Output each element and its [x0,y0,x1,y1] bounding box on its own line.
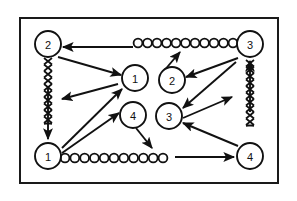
node-label: 1 [132,73,138,85]
node-n-bottom-right[interactable]: 4 [237,143,263,169]
node-label: 2 [45,39,51,51]
node-n-center-four[interactable]: 4 [120,102,146,128]
node-label: 3 [247,39,253,51]
diagram-svg: 23124314 [0,0,297,201]
node-n-bottom-left[interactable]: 1 [35,143,61,169]
node-n-center-one[interactable]: 1 [122,65,148,91]
node-label: 3 [166,111,172,123]
node-label: 2 [169,75,175,87]
node-n-center-two[interactable]: 2 [159,67,185,93]
diagram-canvas: 23124314 [0,0,297,201]
node-label: 1 [45,151,51,163]
screenshot-root: 23124314 [0,0,297,201]
node-n-center-three[interactable]: 3 [156,103,182,129]
node-label: 4 [130,110,136,122]
node-n-top-right[interactable]: 3 [237,31,263,57]
node-label: 4 [247,151,253,163]
node-n-top-left[interactable]: 2 [35,31,61,57]
